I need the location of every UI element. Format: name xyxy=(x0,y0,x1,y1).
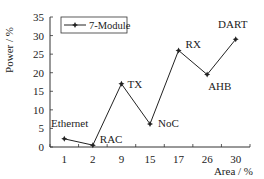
y-tick-label: 25 xyxy=(33,48,45,60)
x-tick-label: 9 xyxy=(119,153,125,165)
point-label: AHB xyxy=(208,80,231,92)
x-tick-label: 15 xyxy=(145,153,157,165)
series-line xyxy=(64,39,235,145)
legend: 7-Module xyxy=(61,17,131,33)
y-tick-label: 10 xyxy=(33,104,45,116)
x-tick-label: 2 xyxy=(90,153,96,165)
y-tick-label: 20 xyxy=(33,67,45,79)
point-label: Ethernet xyxy=(51,117,88,129)
x-tick-label: 30 xyxy=(230,153,242,165)
y-axis-label: Power / % xyxy=(3,27,15,73)
y-tick-label: 0 xyxy=(39,141,45,153)
y-tick-label: 5 xyxy=(39,122,45,134)
legend-label: 7-Module xyxy=(89,20,131,31)
x-axis-label: Area / % xyxy=(214,165,253,177)
point-label: TX xyxy=(127,78,142,90)
y-tick-label: 35 xyxy=(33,11,45,23)
y-tick-label: 30 xyxy=(33,30,45,42)
point-label: RAC xyxy=(100,133,123,145)
x-tick-label: 17 xyxy=(173,153,185,165)
point-label: NoC xyxy=(158,117,179,129)
line-chart: 05101520253035 12915172630 Power / % Are… xyxy=(0,0,264,179)
y-axis: 05101520253035 xyxy=(33,11,53,153)
x-tick-label: 26 xyxy=(202,153,214,165)
x-axis: 12915172630 xyxy=(50,144,250,165)
x-tick-label: 1 xyxy=(62,153,68,165)
y-tick-label: 15 xyxy=(33,85,45,97)
point-label: DART xyxy=(218,18,248,30)
point-label: RX xyxy=(186,38,201,50)
data-point-marker-icon xyxy=(61,136,67,142)
series-7-module: EthernetRACTXNoCRXAHBDART xyxy=(51,18,248,148)
